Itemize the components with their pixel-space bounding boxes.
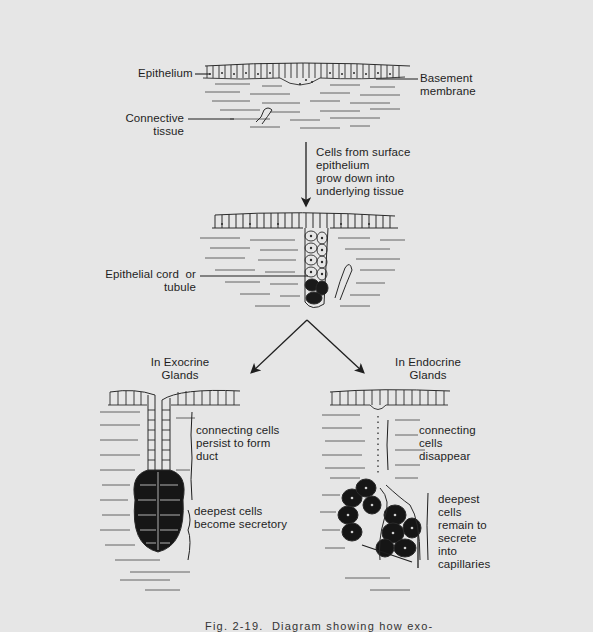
endocrine-title: In Endocrine Glands [378, 356, 478, 382]
figure-caption: Fig. 2-19. Diagram showing how exo- [205, 620, 433, 632]
exocrine-secretory-note: deepest cells become secretory [194, 505, 287, 531]
stage-initial-epithelium [188, 63, 418, 128]
label-growth-description: Cells from surface epithelium grow down … [316, 146, 410, 198]
endocrine-connecting-note: connecting cells disappear [419, 424, 476, 463]
endocrine-secretory-note: deepest cells remain to secrete into cap… [438, 493, 490, 571]
label-epithelial-cord: Epithelial cord or tubule [60, 268, 196, 294]
arrow-to-endocrine [307, 320, 363, 372]
stage-endocrine-gland [320, 390, 450, 590]
stage-epithelial-cord [200, 213, 405, 308]
label-epithelium: Epithelium [138, 67, 193, 80]
label-basement-membrane: Basement membrane [420, 72, 476, 98]
arrow-to-exocrine [252, 320, 307, 372]
stage-exocrine-gland [100, 390, 240, 590]
label-connective-tissue: Connective tissue [124, 112, 184, 138]
exocrine-title: In Exocrine Glands [130, 356, 230, 382]
exocrine-duct-note: connecting cells persist to form duct [196, 424, 279, 463]
